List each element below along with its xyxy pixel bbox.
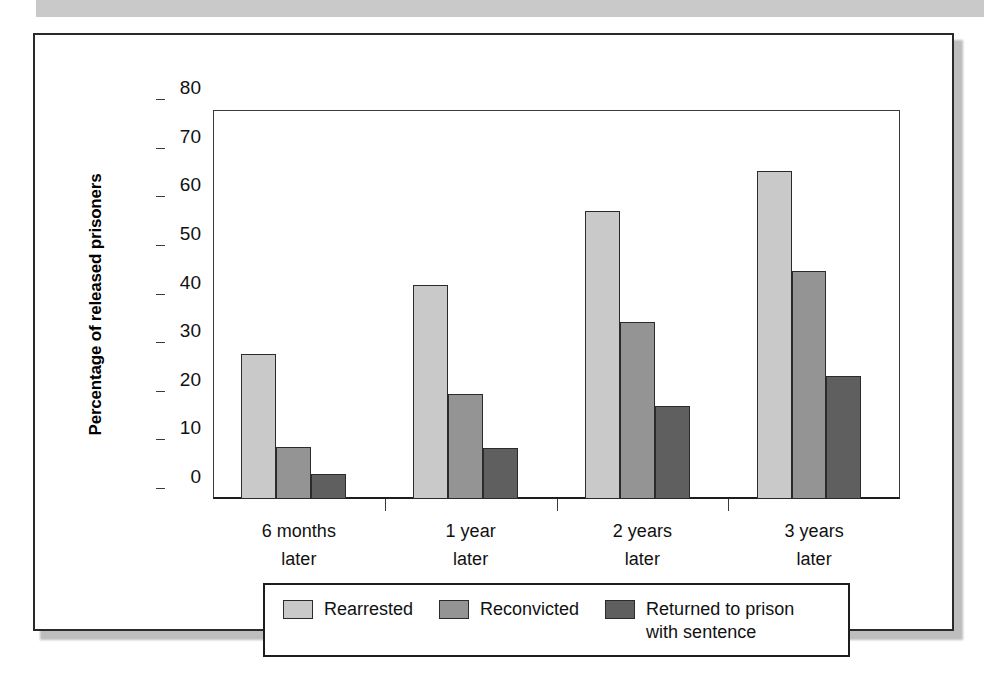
x-axis-label-line: 3 years — [728, 517, 900, 545]
legend-label: Returned to prisonwith sentence — [646, 598, 794, 644]
bar-group — [728, 110, 900, 499]
bar-1-0[interactable] — [276, 447, 311, 499]
y-tick-label: 0 — [165, 466, 213, 488]
legend-label-line: Returned to prison — [646, 598, 794, 621]
chart-figure-frame: Percentage of released prisoners 0102030… — [33, 33, 954, 631]
legend-label: Rearrested — [324, 598, 413, 621]
y-tick-label: 40 — [165, 272, 213, 294]
bar-2-1[interactable] — [483, 448, 518, 499]
y-tick-mark — [156, 294, 165, 295]
x-axis-label-1: 1 yearlater — [385, 517, 557, 573]
y-tick-label: 60 — [165, 174, 213, 196]
bar-1-3[interactable] — [792, 271, 827, 499]
y-tick-label: 30 — [165, 320, 213, 342]
bar-2-2[interactable] — [655, 406, 690, 499]
x-axis-label-0: 6 monthslater — [213, 517, 385, 573]
bar-2-0[interactable] — [311, 474, 346, 499]
bar-series-layer — [213, 110, 900, 499]
y-tick-label: 80 — [165, 77, 213, 99]
plot-wrapper: 01020304050607080 — [213, 110, 900, 499]
x-axis-label-line: later — [213, 545, 385, 573]
y-tick-mark — [156, 99, 165, 100]
bar-group — [213, 110, 385, 499]
y-tick-mark — [156, 148, 165, 149]
chart-legend: RearrestedReconvictedReturned to prisonw… — [263, 583, 850, 657]
bar-1-1[interactable] — [448, 394, 483, 499]
x-axis-tick-mark — [385, 499, 386, 511]
x-axis-tick-mark — [728, 499, 729, 511]
legend-label: Reconvicted — [480, 598, 579, 621]
bar-0-0[interactable] — [241, 354, 276, 499]
y-tick-mark — [156, 245, 165, 246]
top-gray-band — [36, 0, 984, 17]
y-tick-label: 10 — [165, 417, 213, 439]
y-axis-title: Percentage of released prisoners — [83, 110, 109, 499]
bar-0-3[interactable] — [757, 171, 792, 499]
bar-2-3[interactable] — [826, 376, 861, 500]
y-tick-mark — [156, 342, 165, 343]
y-tick-mark — [156, 488, 165, 489]
legend-swatch-icon — [605, 600, 635, 619]
x-axis-label-line: later — [385, 545, 557, 573]
bar-group — [557, 110, 729, 499]
legend-swatch-icon — [283, 600, 313, 619]
legend-item-1[interactable]: Reconvicted — [439, 598, 579, 621]
legend-item-0[interactable]: Rearrested — [283, 598, 413, 621]
x-axis-label-line: later — [557, 545, 729, 573]
y-tick-label: 50 — [165, 223, 213, 245]
bar-group — [385, 110, 557, 499]
x-axis-label-line: 6 months — [213, 517, 385, 545]
y-tick-mark — [156, 196, 165, 197]
bar-1-2[interactable] — [620, 322, 655, 499]
y-tick-label: 70 — [165, 126, 213, 148]
x-axis-label-2: 2 yearslater — [557, 517, 729, 573]
legend-label-line: with sentence — [646, 621, 794, 644]
x-axis-label-line: 2 years — [557, 517, 729, 545]
y-tick-label: 20 — [165, 369, 213, 391]
x-axis-labels: 6 monthslater1 yearlater2 yearslater3 ye… — [213, 517, 900, 573]
legend-item-2[interactable]: Returned to prisonwith sentence — [605, 598, 794, 644]
bar-0-1[interactable] — [413, 285, 448, 499]
x-axis-label-3: 3 yearslater — [728, 517, 900, 573]
x-axis-label-line: later — [728, 545, 900, 573]
x-axis-tick-mark — [557, 499, 558, 511]
legend-swatch-icon — [439, 600, 469, 619]
y-tick-mark — [156, 391, 165, 392]
bar-0-2[interactable] — [585, 211, 620, 499]
x-axis-label-line: 1 year — [385, 517, 557, 545]
y-tick-mark — [156, 439, 165, 440]
